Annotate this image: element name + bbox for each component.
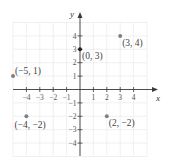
axes: x y	[13, 9, 160, 156]
x-tick-label: 1	[92, 93, 96, 102]
y-tick-label: −1	[69, 99, 77, 108]
point-label: (3, 4)	[122, 38, 143, 49]
x-tick-label: −2	[49, 93, 57, 102]
y-axis-label: y	[69, 9, 74, 19]
x-tick-label: 2	[105, 93, 109, 102]
point-label: (−5, 1)	[15, 66, 41, 77]
y-axis-arrow-icon	[78, 12, 83, 18]
x-tick-label: 3	[118, 93, 122, 102]
y-tick-label: −2	[69, 112, 77, 121]
y-tick-label: 4	[73, 32, 77, 41]
y-tick-label: −3	[69, 125, 77, 134]
y-tick-label: 3	[73, 45, 77, 54]
coordinate-plane: x y −4−3−2−11234−4−3−2−11234 (3, 4)(0, 3…	[0, 0, 170, 165]
y-tick-label: −4	[69, 139, 77, 148]
y-tick-label: 1	[73, 72, 77, 81]
data-points: (3, 4)(0, 3)(−5, 1)(−4, −2)(2, −2)	[11, 34, 143, 131]
x-tick-label: 4	[132, 93, 136, 102]
data-point	[24, 114, 28, 118]
point-label: (0, 3)	[82, 51, 103, 62]
y-tick-label: 2	[73, 58, 77, 67]
x-tick-label: −4	[22, 93, 30, 102]
point-label: (−4, −2)	[14, 120, 45, 131]
x-tick-label: −3	[36, 93, 44, 102]
x-axis-arrow-icon	[152, 87, 158, 92]
x-axis-label: x	[155, 93, 160, 103]
point-label: (2, −2)	[109, 118, 135, 129]
